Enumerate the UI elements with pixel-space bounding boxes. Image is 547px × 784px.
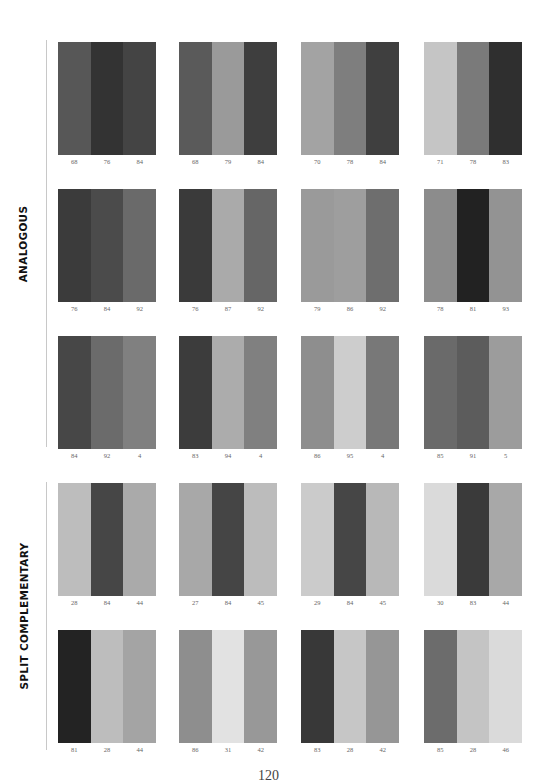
swatch-value-labels: 832842 xyxy=(301,746,399,753)
color-stripe xyxy=(301,336,334,449)
swatch-value-labels: 863142 xyxy=(179,746,277,753)
swatch-value-labels: 85915 xyxy=(424,452,522,459)
color-stripe xyxy=(91,336,124,449)
swatch-stripes xyxy=(424,42,522,155)
swatch-value-labels: 84924 xyxy=(58,452,156,459)
hue-value: 27 xyxy=(179,599,212,606)
swatch-stripes xyxy=(58,483,156,596)
color-stripe xyxy=(457,336,490,449)
swatch-value-labels: 707884 xyxy=(301,158,399,165)
hue-value: 78 xyxy=(334,158,367,165)
hue-value: 93 xyxy=(489,305,522,312)
color-stripe xyxy=(58,630,91,743)
swatch-stripes xyxy=(424,336,522,449)
color-stripe xyxy=(244,189,277,302)
color-stripe xyxy=(212,189,245,302)
hue-value: 42 xyxy=(366,746,399,753)
color-stripe xyxy=(489,42,522,155)
swatch-value-labels: 278445 xyxy=(179,599,277,606)
hue-value: 83 xyxy=(457,599,490,606)
hue-value: 85 xyxy=(424,746,457,753)
color-swatch-card: 86954 xyxy=(301,336,399,459)
swatch-value-labels: 812844 xyxy=(58,746,156,753)
color-stripe xyxy=(301,630,334,743)
hue-value: 92 xyxy=(123,305,156,312)
hue-value: 46 xyxy=(489,746,522,753)
color-stripe xyxy=(91,189,124,302)
color-stripe xyxy=(179,189,212,302)
hue-value: 78 xyxy=(424,305,457,312)
swatch-stripes xyxy=(179,189,277,302)
color-stripe xyxy=(424,630,457,743)
hue-value: 45 xyxy=(244,599,277,606)
swatch-value-labels: 717883 xyxy=(424,158,522,165)
swatch-value-labels: 86954 xyxy=(301,452,399,459)
color-swatch-card: 768492 xyxy=(58,189,156,312)
color-swatch-card: 707884 xyxy=(301,42,399,165)
swatch-stripes xyxy=(58,42,156,155)
swatch-stripes xyxy=(424,483,522,596)
hue-value: 87 xyxy=(212,305,245,312)
color-stripe xyxy=(244,483,277,596)
hue-value: 29 xyxy=(301,599,334,606)
color-swatch-card: 84924 xyxy=(58,336,156,459)
color-swatch-card: 798692 xyxy=(301,189,399,312)
swatch-stripes xyxy=(179,483,277,596)
swatch-value-labels: 768492 xyxy=(58,305,156,312)
hue-value: 45 xyxy=(366,599,399,606)
color-stripe xyxy=(489,189,522,302)
hue-value: 86 xyxy=(179,746,212,753)
color-swatch-card: 687684 xyxy=(58,42,156,165)
hue-value: 84 xyxy=(334,599,367,606)
swatch-stripes xyxy=(58,630,156,743)
color-stripe xyxy=(212,336,245,449)
hue-value: 84 xyxy=(123,158,156,165)
hue-value: 42 xyxy=(244,746,277,753)
color-stripe xyxy=(366,483,399,596)
hue-value: 4 xyxy=(244,452,277,459)
swatch-stripes xyxy=(424,630,522,743)
hue-value: 44 xyxy=(123,746,156,753)
hue-value: 92 xyxy=(91,452,124,459)
section-label-analogous: ANALOGOUS xyxy=(8,40,38,447)
section-rule-split-complementary xyxy=(46,482,47,750)
swatch-value-labels: 798692 xyxy=(301,305,399,312)
color-stripe xyxy=(457,483,490,596)
color-stripe xyxy=(424,42,457,155)
hue-value: 71 xyxy=(424,158,457,165)
color-swatch-card: 288444 xyxy=(58,483,156,606)
swatch-stripes xyxy=(301,42,399,155)
hue-value: 31 xyxy=(212,746,245,753)
hue-value: 76 xyxy=(58,305,91,312)
swatch-stripes xyxy=(58,336,156,449)
hue-value: 84 xyxy=(91,305,124,312)
color-stripe xyxy=(366,336,399,449)
color-stripe xyxy=(123,189,156,302)
hue-value: 68 xyxy=(179,158,212,165)
hue-value: 83 xyxy=(301,746,334,753)
color-swatch-card: 298445 xyxy=(301,483,399,606)
hue-value: 86 xyxy=(334,305,367,312)
swatch-stripes xyxy=(424,189,522,302)
hue-value: 84 xyxy=(91,599,124,606)
color-stripe xyxy=(489,336,522,449)
color-stripe xyxy=(301,189,334,302)
swatch-value-labels: 83944 xyxy=(179,452,277,459)
color-stripe xyxy=(424,336,457,449)
color-stripe xyxy=(424,189,457,302)
hue-value: 92 xyxy=(366,305,399,312)
swatch-value-labels: 852846 xyxy=(424,746,522,753)
swatch-stripes xyxy=(179,42,277,155)
color-swatch-card: 83944 xyxy=(179,336,277,459)
color-stripe xyxy=(123,483,156,596)
hue-value: 84 xyxy=(244,158,277,165)
color-stripe xyxy=(366,630,399,743)
color-stripe xyxy=(334,630,367,743)
color-stripe xyxy=(424,483,457,596)
hue-value: 68 xyxy=(58,158,91,165)
color-stripe xyxy=(366,42,399,155)
color-stripe xyxy=(489,630,522,743)
color-swatch-card: 768792 xyxy=(179,189,277,312)
color-stripe xyxy=(212,42,245,155)
color-stripe xyxy=(123,42,156,155)
